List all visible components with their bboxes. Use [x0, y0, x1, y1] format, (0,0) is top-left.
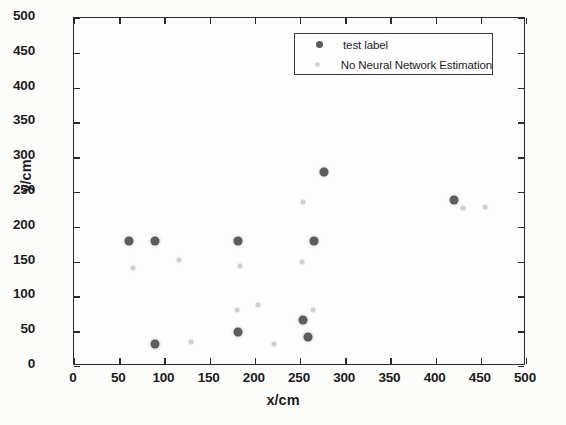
y-tick-label-0: 0: [28, 356, 35, 371]
y-tick-right-0: [518, 366, 524, 367]
y-tick-label-350: 350: [13, 112, 35, 127]
y-tick-350: [74, 122, 80, 123]
x-tick-top-300: [345, 18, 346, 24]
scatter-plot-figure: 050100150200250300350400450500 050100150…: [0, 0, 566, 425]
y-tick-100: [74, 296, 80, 297]
y-tick-label-150: 150: [13, 252, 35, 267]
y-tick-right-350: [518, 122, 524, 123]
x-tick-350: [390, 358, 391, 364]
y-tick-right-400: [518, 88, 524, 89]
data-point: [125, 236, 134, 245]
legend-entry-test-label: test label: [295, 34, 492, 55]
data-point: [176, 257, 181, 262]
x-tick-250: [300, 358, 301, 364]
y-tick-right-500: [518, 18, 524, 19]
x-tick-label-350: 350: [369, 370, 409, 385]
x-axis-title: x/cm: [0, 392, 566, 408]
y-tick-right-100: [518, 296, 524, 297]
x-tick-label-500: 500: [505, 370, 545, 385]
data-point: [151, 339, 160, 348]
legend-marker-dark-dot-icon: [295, 41, 343, 48]
x-tick-150: [210, 358, 211, 364]
legend-marker-light-dot-icon: [295, 62, 341, 67]
data-point: [188, 339, 193, 344]
x-tick-500: [526, 358, 527, 364]
x-tick-450: [481, 358, 482, 364]
x-tick-top-100: [164, 18, 165, 24]
y-tick-right-200: [518, 227, 524, 228]
x-tick-top-150: [210, 18, 211, 24]
data-point: [300, 199, 305, 204]
legend-label-1: No Neural Network Estimation: [341, 59, 492, 71]
y-tick-label-50: 50: [20, 321, 35, 336]
data-point: [310, 237, 319, 246]
y-tick-right-150: [518, 262, 524, 263]
y-tick-300: [74, 157, 80, 158]
x-tick-0: [74, 358, 75, 364]
legend-entry-no-neural-network-estimation: No Neural Network Estimation: [295, 54, 492, 75]
y-tick-250: [74, 192, 80, 193]
data-point: [233, 327, 242, 336]
y-tick-150: [74, 262, 80, 263]
x-tick-top-200: [255, 18, 256, 24]
y-axis-title: y/cm: [18, 136, 34, 216]
y-tick-label-500: 500: [13, 8, 35, 23]
legend-label-0: test label: [343, 39, 388, 51]
x-tick-label-450: 450: [460, 370, 500, 385]
y-tick-label-450: 450: [13, 43, 35, 58]
y-tick-right-450: [518, 53, 524, 54]
data-point: [238, 264, 243, 269]
x-tick-label-300: 300: [324, 370, 364, 385]
x-tick-top-250: [300, 18, 301, 24]
x-tick-top-500: [526, 18, 527, 24]
data-point: [234, 307, 239, 312]
x-tick-label-100: 100: [143, 370, 183, 385]
data-point: [299, 260, 304, 265]
y-tick-50: [74, 331, 80, 332]
y-tick-400: [74, 88, 80, 89]
x-tick-label-400: 400: [415, 370, 455, 385]
x-tick-300: [345, 358, 346, 364]
x-tick-label-150: 150: [189, 370, 229, 385]
x-tick-top-400: [436, 18, 437, 24]
x-tick-100: [164, 358, 165, 364]
y-tick-right-250: [518, 192, 524, 193]
x-tick-label-50: 50: [98, 370, 138, 385]
data-point: [233, 236, 242, 245]
x-tick-label-250: 250: [279, 370, 319, 385]
y-tick-label-200: 200: [13, 217, 35, 232]
y-tick-200: [74, 227, 80, 228]
data-point: [483, 204, 488, 209]
data-point: [304, 333, 313, 342]
data-point: [319, 167, 328, 176]
data-point: [310, 308, 315, 313]
x-tick-top-350: [390, 18, 391, 24]
x-tick-200: [255, 358, 256, 364]
x-tick-label-200: 200: [234, 370, 274, 385]
y-tick-label-100: 100: [13, 286, 35, 301]
data-point: [298, 316, 307, 325]
x-tick-top-50: [119, 18, 120, 24]
chart-legend: test label No Neural Network Estimation: [294, 33, 493, 75]
data-point: [271, 342, 276, 347]
data-point: [449, 195, 458, 204]
data-point: [130, 265, 135, 270]
x-tick-label-0: 0: [53, 370, 93, 385]
y-tick-right-50: [518, 331, 524, 332]
y-tick-0: [74, 366, 80, 367]
x-tick-top-450: [481, 18, 482, 24]
y-tick-label-400: 400: [13, 78, 35, 93]
y-tick-450: [74, 53, 80, 54]
y-tick-right-300: [518, 157, 524, 158]
x-tick-50: [119, 358, 120, 364]
data-point: [151, 236, 160, 245]
x-tick-top-0: [74, 18, 75, 24]
data-point: [256, 303, 261, 308]
data-point: [460, 206, 465, 211]
x-tick-400: [436, 358, 437, 364]
